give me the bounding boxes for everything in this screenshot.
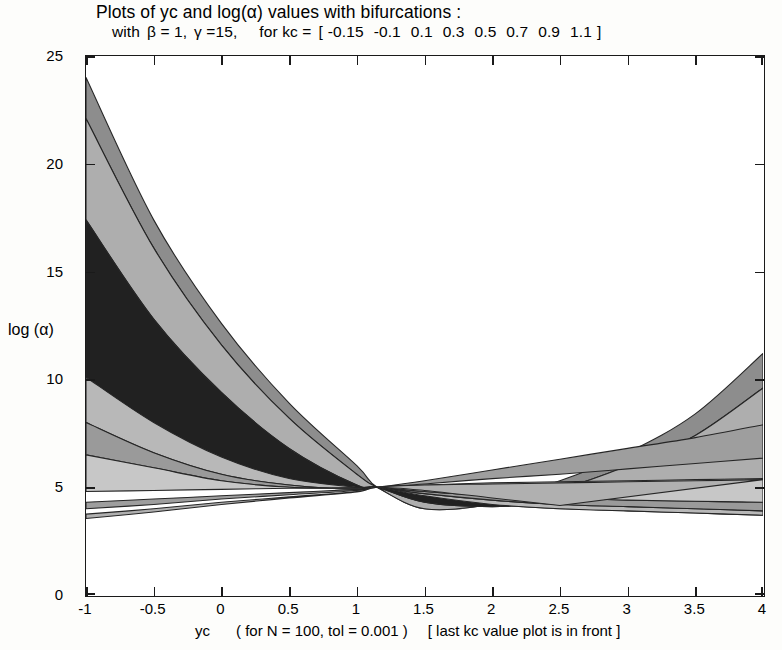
y-tick-left-5 — [86, 56, 95, 58]
bifurcation-bands-svg — [86, 56, 763, 595]
x-tick-bottom-3 — [289, 587, 291, 596]
x-tick-label-2: 0 — [216, 600, 224, 617]
x-tick-top-8 — [628, 56, 630, 65]
x-tick-top-4 — [357, 56, 359, 65]
y-tick-right-3 — [755, 272, 764, 274]
y-tick-right-0 — [755, 593, 764, 595]
y-tick-left-3 — [86, 272, 95, 274]
chart-title: Plots of yc and log(α) values with bifur… — [96, 2, 461, 23]
kc-value-3: 0.3 — [443, 23, 465, 41]
x-tick-label-0: -1 — [78, 600, 91, 617]
kc-value-7: 1.1 — [570, 23, 592, 41]
y-tick-label-1: 5 — [55, 478, 63, 495]
x-tick-bottom-1 — [154, 587, 156, 596]
plot-area — [85, 55, 765, 597]
x-tick-label-6: 2 — [487, 600, 495, 617]
y-tick-label-3: 15 — [46, 262, 63, 279]
x-tick-top-3 — [289, 56, 291, 65]
x-tick-bottom-5 — [425, 587, 427, 596]
y-tick-label-0: 0 — [55, 586, 63, 603]
y-tick-left-4 — [86, 164, 95, 166]
x-tick-bottom-2 — [221, 587, 223, 596]
bleed-line-10 — [60, 540, 64, 555]
y-tick-right-2 — [755, 379, 764, 381]
x-tick-label-5: 1.5 — [413, 600, 434, 617]
x-tick-bottom-10 — [761, 587, 763, 596]
x-tick-label-10: 4 — [758, 600, 766, 617]
x-axis-label: yc — [195, 622, 210, 639]
kc-value-2: 0.1 — [411, 23, 433, 41]
x-tick-bottom-9 — [695, 587, 697, 596]
x-tick-label-7: 2.5 — [548, 600, 569, 617]
y-tick-left-0 — [86, 593, 95, 595]
chart-subtitle: withβ = 1,γ =15,for kc =[-0.15-0.10.10.3… — [112, 23, 601, 41]
x-tick-top-2 — [221, 56, 223, 65]
x-tick-bottom-4 — [357, 587, 359, 596]
x-axis-note: [ last kc value plot is in front ] — [428, 622, 621, 639]
x-tick-top-9 — [695, 56, 697, 65]
kc-value-0: -0.15 — [328, 23, 364, 41]
subtitle-bracket-open: [ — [318, 23, 322, 40]
y-tick-right-5 — [755, 56, 764, 58]
x-tick-bottom-7 — [560, 587, 562, 596]
y-axis-label: log (α) — [8, 321, 54, 339]
y-tick-left-2 — [86, 379, 95, 381]
y-tick-label-4: 20 — [46, 154, 63, 171]
subtitle-gamma: γ =15, — [194, 23, 237, 40]
x-axis-caption: yc( for N = 100, tol = 0.001 )[ last kc … — [85, 622, 765, 639]
x-tick-label-3: 0.5 — [278, 600, 299, 617]
kc-value-6: 0.9 — [538, 23, 560, 41]
kc-value-1: -0.1 — [374, 23, 401, 41]
subtitle-beta: β = 1, — [147, 23, 187, 40]
x-tick-bottom-6 — [492, 587, 494, 596]
x-tick-label-1: -0.5 — [140, 600, 166, 617]
kc-value-4: 0.5 — [475, 23, 497, 41]
x-tick-top-5 — [425, 56, 427, 65]
subtitle-for-kc: for kc = — [259, 23, 311, 40]
y-tick-left-1 — [86, 487, 95, 489]
x-axis-params: ( for N = 100, tol = 0.001 ) — [236, 622, 408, 639]
x-tick-top-7 — [560, 56, 562, 65]
x-tick-bottom-8 — [628, 587, 630, 596]
x-tick-label-9: 3.5 — [684, 600, 705, 617]
x-tick-top-6 — [492, 56, 494, 65]
x-tick-label-8: 3 — [622, 600, 630, 617]
y-tick-right-4 — [755, 164, 764, 166]
figure-root: Plots of yc and log(α) values with bifur… — [0, 0, 782, 650]
x-tick-bottom-0 — [86, 587, 88, 596]
y-tick-label-2: 10 — [46, 370, 63, 387]
y-tick-right-1 — [755, 487, 764, 489]
subtitle-with: with — [112, 23, 140, 40]
subtitle-bracket-close: ] — [597, 23, 601, 40]
x-tick-top-1 — [154, 56, 156, 65]
kc-value-5: 0.7 — [506, 23, 528, 41]
y-tick-label-5: 25 — [46, 47, 63, 64]
x-tick-label-4: 1 — [352, 600, 360, 617]
bleed-line-11 — [60, 565, 64, 580]
